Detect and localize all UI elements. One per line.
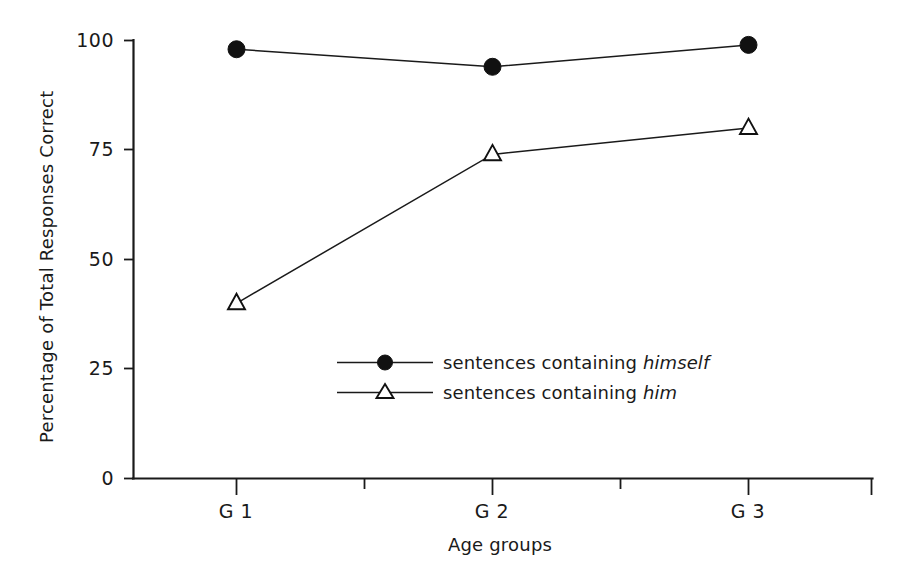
y-tick-label-100: 100: [58, 29, 114, 51]
legend-label-himself: sentences containing himself: [443, 352, 709, 373]
y-tick-label-25: 25: [58, 357, 114, 379]
legend-label-him: sentences containing him: [443, 382, 677, 403]
x-axis-ticks: [237, 478, 872, 495]
legend-label-him-plain: sentences containing: [443, 382, 637, 403]
chart-figure: 100 75 50 25 0 G 1 G 2 G 3 Percentage of…: [0, 0, 898, 584]
data-point-marker-open-triangle: [228, 294, 245, 309]
x-tick-label-g2: G 2: [475, 500, 509, 522]
legend-label-him-emphasis: him: [643, 382, 677, 403]
data-point-marker-open-triangle: [740, 119, 757, 134]
legend-marker-open-triangle: [377, 384, 394, 398]
x-axis-title: Age groups: [448, 534, 552, 555]
y-tick-label-75: 75: [58, 138, 114, 160]
legend-samples: [337, 355, 433, 398]
y-axis-title: Percentage of Total Responses Correct: [36, 91, 57, 443]
x-tick-label-g3: G 3: [731, 500, 765, 522]
data-point-marker-open-triangle: [484, 145, 501, 160]
y-tick-label-0: 0: [58, 467, 114, 489]
data-point-marker-filled-circle: [740, 36, 757, 53]
data-point-marker-filled-circle: [228, 41, 245, 58]
data-point-marker-filled-circle: [484, 58, 501, 75]
legend-marker-filled-circle: [378, 355, 393, 370]
x-tick-label-g1: G 1: [219, 500, 253, 522]
legend-label-himself-plain: sentences containing: [443, 352, 637, 373]
y-axis-ticks: [124, 41, 133, 479]
series-layer: [228, 36, 757, 309]
chart-plot-area: [0, 0, 898, 584]
y-tick-label-50: 50: [58, 248, 114, 270]
legend-label-himself-emphasis: himself: [643, 352, 709, 373]
